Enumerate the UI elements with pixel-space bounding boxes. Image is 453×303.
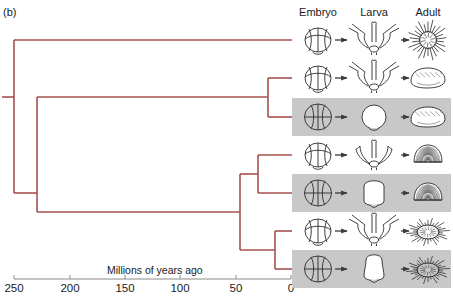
organism-cleavage-embryo-blastomeres-row6 <box>305 219 331 245</box>
organism-pluteus-long-arms-row2 <box>349 60 399 93</box>
phylogenetic-tree <box>2 40 292 269</box>
organism-pluteus-short-arms-row4 <box>356 140 392 170</box>
organism-urchin-spiny-flat-row6 <box>406 218 450 246</box>
organism-cleavage-embryo-blastomeres-row2 <box>305 66 331 92</box>
organism-direct-embryo-large-row3 <box>305 104 332 130</box>
organism-direct-larva-oval-row5 <box>364 181 384 208</box>
time-axis <box>14 275 291 279</box>
organism-sand-dollar-dome-row4 <box>414 145 442 162</box>
figure-panel: (b) Embryo Larva Adult Millions of years… <box>0 0 453 303</box>
organism-illustrations <box>305 20 450 284</box>
organism-direct-embryo-large-row5 <box>305 180 332 206</box>
organism-urchin-spiny-round-row1 <box>409 20 447 60</box>
organism-pluteus-long-arms-row6 <box>349 213 399 246</box>
organism-cleavage-embryo-blastomeres-row1 <box>305 28 331 54</box>
organism-direct-embryo-large-row7 <box>305 256 332 282</box>
organism-heart-urchin-oval-smooth-row3 <box>411 107 445 127</box>
organism-heart-urchin-oval-smooth-row2 <box>411 68 445 88</box>
organism-cleavage-embryo-blastomeres-row4 <box>305 143 331 169</box>
organism-direct-larva-tall-row7 <box>364 255 384 283</box>
figure-canvas <box>0 0 453 303</box>
organism-pluteus-long-arms-row1 <box>349 22 399 55</box>
